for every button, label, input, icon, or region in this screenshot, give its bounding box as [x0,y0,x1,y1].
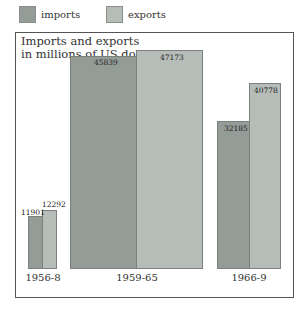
legend-imports: imports [19,6,80,23]
value-imports-1956-8: 11901 [21,208,45,217]
bar-exports-1956-8 [42,210,57,269]
bar-imports-1959-65 [70,56,137,269]
category-1966-9: 1966-9 [226,272,272,283]
imports-swatch [19,6,36,23]
value-imports-1959-65: 45839 [94,58,118,67]
legend-label-imports: imports [41,9,80,20]
value-exports-1966-9: 40778 [254,86,278,95]
category-1959-65: 1959-65 [112,272,162,283]
bar-imports-1956-8 [28,216,43,269]
legend-label-exports: exports [128,9,166,20]
value-imports-1966-9: 32185 [224,124,248,133]
value-exports-1959-65: 47173 [160,53,184,62]
legend-exports: exports [106,6,166,23]
bar-exports-1959-65 [136,50,203,269]
bar-imports-1966-9 [217,121,250,269]
exports-swatch [106,6,123,23]
category-1956-8: 1956-8 [22,272,64,283]
bar-exports-1966-9 [249,83,281,269]
value-exports-1956-8: 12292 [42,200,66,209]
